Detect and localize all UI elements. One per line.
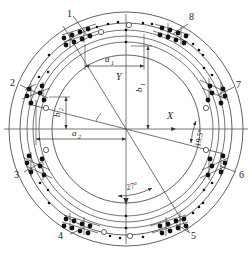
x-axis-label: X <box>166 110 174 121</box>
dim-b2-subscript: 2 <box>58 108 64 111</box>
origin-angle-arc <box>96 113 101 121</box>
drawing-svg: a 1 a 2 b 1 b 2 19.5° 27° X Y 1 2 3 4 5 … <box>0 0 252 258</box>
callout-8: 8 <box>189 11 194 22</box>
angle-27-label: 27° <box>125 180 138 191</box>
angle-27-group: 27° <box>118 180 152 196</box>
callout-1: 1 <box>67 8 72 19</box>
callout-2: 2 <box>10 77 15 88</box>
dim-a2-label: a <box>72 128 77 138</box>
callout-6: 6 <box>239 169 244 180</box>
dim-a2-subscript: 2 <box>78 134 81 140</box>
callout-7: 7 <box>236 79 241 90</box>
dim-a1: a 1 <box>85 34 144 70</box>
y-axis-down-arrow <box>123 198 128 205</box>
y-axis-label: Y <box>116 71 123 82</box>
callout-3: 3 <box>14 169 19 180</box>
dim-a1-label: a <box>105 54 110 64</box>
dim-a1-subscript: 1 <box>111 60 114 66</box>
angle-19-5-group: 19.5° <box>191 121 206 147</box>
figure-canvas: a 1 a 2 b 1 b 2 19.5° 27° X Y 1 2 3 4 5 … <box>0 0 252 258</box>
callout-4: 4 <box>58 230 63 241</box>
bolt-group-7 <box>200 67 228 111</box>
callout-5: 5 <box>191 230 196 241</box>
angle-19-5-label: 19.5° <box>193 129 205 148</box>
bolt-group-4 <box>62 213 133 239</box>
dim-b2-label: b <box>52 112 62 117</box>
dim-b1-label: b <box>134 87 144 92</box>
dim-b1-subscript: 1 <box>140 83 146 86</box>
